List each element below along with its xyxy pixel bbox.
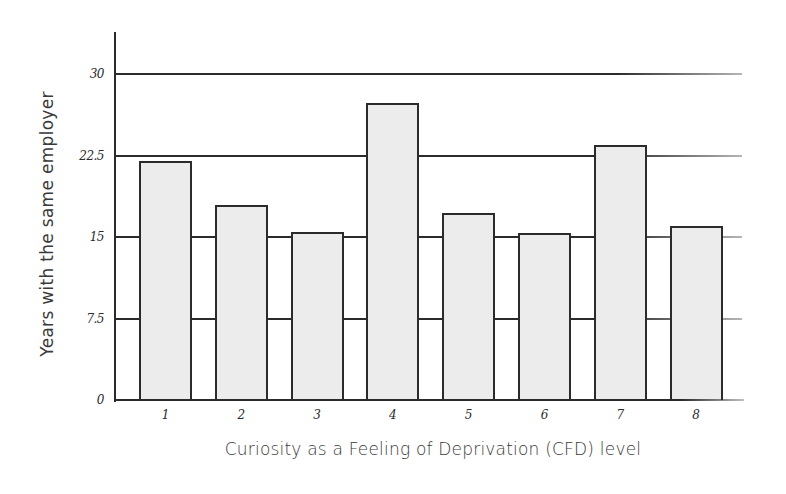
gridline [115, 318, 742, 320]
bar-4 [366, 103, 419, 400]
x-axis-line [114, 399, 744, 401]
gridline [115, 236, 742, 238]
y-axis-title: Years with the same employer [37, 91, 57, 357]
x-tick-label: 8 [681, 408, 711, 422]
gridline [115, 73, 742, 75]
y-tick-label: 15 [64, 230, 104, 244]
bar-7 [594, 145, 647, 400]
bar-1 [139, 161, 192, 400]
y-tick-label: 0 [64, 393, 104, 407]
x-tick-label: 3 [302, 408, 332, 422]
x-tick-label: 5 [454, 408, 484, 422]
y-tick-label: 30 [64, 67, 104, 81]
x-tick-label: 6 [530, 408, 560, 422]
x-tick-label: 1 [151, 408, 181, 422]
x-tick-label: 4 [378, 408, 408, 422]
x-tick-label: 7 [605, 408, 635, 422]
gridline [115, 155, 742, 157]
bar-3 [291, 232, 344, 400]
y-tick-label: 22.5 [64, 149, 104, 163]
bar-2 [215, 205, 268, 400]
x-axis-title: Curiosity as a Feeling of Deprivation (C… [0, 439, 786, 459]
bar-8 [670, 226, 723, 400]
bar-5 [442, 213, 495, 400]
bar-chart: 07.51522.530 12345678 Years with the sam… [0, 0, 786, 494]
y-tick-label: 7.5 [64, 312, 104, 326]
x-tick-label: 2 [226, 408, 256, 422]
bar-6 [518, 233, 571, 400]
y-axis-line [114, 32, 116, 402]
